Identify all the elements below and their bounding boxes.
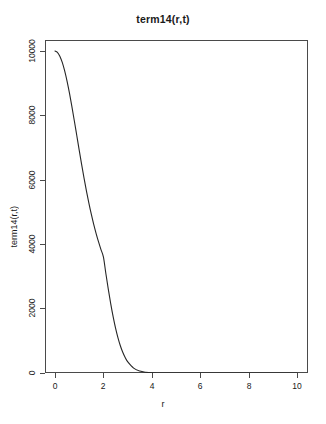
x-axis-title: r <box>0 399 326 409</box>
x-tick-mark-10 <box>297 373 298 378</box>
x-tick-label: 2 <box>88 381 118 391</box>
x-tick-mark-2 <box>103 373 104 378</box>
y-tick-label: 10000 <box>28 39 37 63</box>
x-tick-label: 10 <box>282 381 312 391</box>
x-tick-mark-0 <box>55 373 56 378</box>
x-tick-label: 8 <box>234 381 264 391</box>
x-tick-label: 4 <box>137 381 167 391</box>
data-series-line <box>55 51 297 373</box>
y-tick-mark-0 <box>40 373 45 374</box>
y-axis-title: term14(r,t) <box>10 206 19 248</box>
x-tick-mark-6 <box>200 373 201 378</box>
page-title: term14(r,t) <box>0 13 326 25</box>
x-tick-mark-4 <box>152 373 153 378</box>
chart-figure: term14(r,t) 0 2000 4000 6000 8000 10000 … <box>0 0 326 424</box>
y-tick-label: 4000 <box>28 235 37 254</box>
chart-canvas <box>45 40 308 373</box>
y-tick-label: 0 <box>28 371 37 376</box>
y-tick-label: 6000 <box>28 171 37 190</box>
y-tick-label: 8000 <box>28 106 37 125</box>
y-axis: 0 2000 4000 6000 8000 10000 <box>0 0 45 424</box>
x-tick-label: 6 <box>185 381 215 391</box>
x-tick-label: 0 <box>40 381 70 391</box>
x-tick-mark-8 <box>249 373 250 378</box>
y-tick-label: 2000 <box>28 299 37 318</box>
